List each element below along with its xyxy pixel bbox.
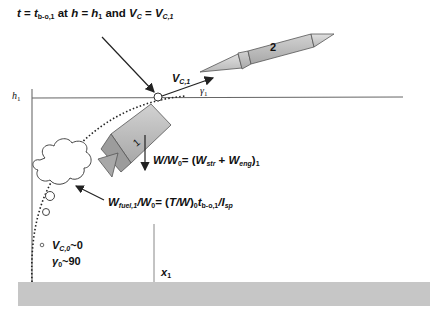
staging-point — [154, 93, 162, 101]
staging-trajectory-diagram: t = tb-o,1 at h = h1 and VC = VC,1 h1 VC… — [0, 0, 430, 310]
fuel-pointer-arrow — [76, 186, 104, 200]
title-at: at — [55, 7, 72, 19]
fuel-equation: Wfuel,1/W0= (T/W)0tb-o,1/Isp — [108, 197, 233, 209]
exhaust-puff — [46, 192, 55, 201]
h1-axis-label: h1 — [12, 91, 21, 103]
title-and: and — [102, 7, 129, 19]
weight-equation: W/W0= (Wstr + Weng)1 — [153, 155, 260, 167]
h1-sub: 1 — [17, 95, 21, 103]
feq-isp-sub: sp — [225, 202, 233, 209]
weq-weng-sub: eng — [239, 160, 251, 167]
exhaust-puff — [40, 243, 44, 247]
gamma1-label: γ1 — [200, 86, 207, 98]
title-eq: = — [78, 7, 91, 19]
gamma0-rest: ~90 — [62, 255, 81, 267]
title-pointer-arrow — [102, 37, 154, 92]
title-vc1: V — [155, 7, 163, 19]
weq-eq: = ( — [182, 154, 196, 166]
vc0-rest: ~0 — [70, 239, 83, 251]
stage-2-label: 2 — [270, 42, 276, 53]
exhaust-puff — [43, 209, 50, 216]
feq-tw: T/W — [169, 196, 190, 208]
feq-w0: W — [140, 196, 151, 208]
feq-wf-sub: fuel,1 — [119, 202, 137, 209]
x1-sub: 1 — [167, 272, 171, 279]
title-tb-sub: b-o,1 — [38, 13, 55, 20]
weq-w: W — [153, 154, 164, 166]
initial-angle-label: γ0~90 — [52, 256, 81, 268]
weq-wstr: W — [196, 154, 207, 166]
title-eq: = — [142, 7, 155, 19]
vc0-sub: C,0 — [59, 245, 70, 252]
feq-tb-sub: b-o,1 — [202, 202, 219, 209]
title-vc: V — [129, 7, 137, 19]
title-vc1-sub: C,1 — [163, 13, 174, 20]
exhaust-cloud — [33, 139, 91, 185]
initial-velocity-label: VC,0~0 — [52, 240, 83, 252]
velocity-label: VC,1 — [172, 73, 190, 85]
title-eq: = — [21, 7, 34, 19]
h1-altitude-line — [32, 97, 403, 98]
staging-condition-title: t = tb-o,1 at h = h1 and VC = VC,1 — [17, 8, 174, 20]
stage-2-rocket — [200, 34, 334, 72]
feq-eq: = ( — [155, 196, 169, 208]
gamma1-sub: 1 — [204, 90, 208, 98]
weq-close-sub: 1 — [256, 160, 260, 167]
weq-weng: W — [229, 154, 240, 166]
x1-label: x1 — [161, 267, 171, 279]
vc1-sub: C,1 — [179, 78, 190, 85]
feq-wf: W — [108, 196, 119, 208]
weq-w0: W — [167, 154, 178, 166]
ground — [18, 282, 430, 306]
weq-plus: + — [215, 154, 228, 166]
